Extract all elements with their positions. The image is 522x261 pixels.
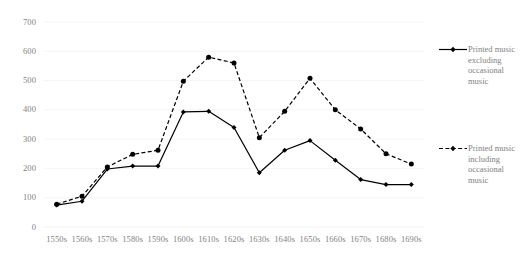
data-point-marker (384, 151, 389, 156)
legend-swatch-solid-icon (438, 44, 468, 55)
series-line-1 (57, 57, 412, 204)
data-point-marker (130, 152, 135, 157)
data-point-marker (80, 194, 85, 199)
data-point-marker (308, 76, 313, 81)
data-point-marker (54, 202, 59, 207)
x-axis-tick-label: 1690s (391, 234, 431, 244)
line-chart-plot (0, 0, 522, 261)
data-point-marker (409, 182, 414, 187)
y-axis-tick-label: 0 (2, 222, 36, 232)
legend-label: Printed music excluding occasional music (468, 44, 520, 86)
data-point-marker (257, 135, 262, 140)
y-axis-tick-label: 600 (2, 46, 36, 56)
data-point-marker (156, 164, 161, 169)
data-point-marker (232, 61, 237, 66)
y-axis-tick-label: 300 (2, 134, 36, 144)
data-point-marker (384, 182, 389, 187)
data-point-marker (130, 164, 135, 169)
data-series-layer (54, 55, 414, 208)
y-axis-tick-label: 200 (2, 163, 36, 173)
data-point-marker (409, 162, 414, 167)
y-axis-tick-label: 100 (2, 192, 36, 202)
legend-swatch-dashed-icon (438, 143, 468, 154)
y-axis-tick-label: 500 (2, 75, 36, 85)
data-point-marker (156, 148, 161, 153)
data-point-marker (206, 55, 211, 60)
gridlines (44, 22, 424, 227)
data-point-marker (181, 79, 186, 84)
data-point-marker (105, 164, 110, 169)
data-point-marker (333, 107, 338, 112)
data-point-marker (358, 126, 363, 131)
y-axis-tick-label: 400 (2, 104, 36, 114)
chart-container: 7006005004003002001000 1550s1560s1570s15… (0, 0, 522, 261)
legend-label: Printed music including occasional music (468, 143, 520, 185)
legend-entry-1[interactable]: Printed music including occasional music (438, 143, 520, 185)
legend-entry-0[interactable]: Printed music excluding occasional music (438, 44, 520, 86)
y-axis-tick-label: 700 (2, 17, 36, 27)
data-point-marker (282, 109, 287, 114)
